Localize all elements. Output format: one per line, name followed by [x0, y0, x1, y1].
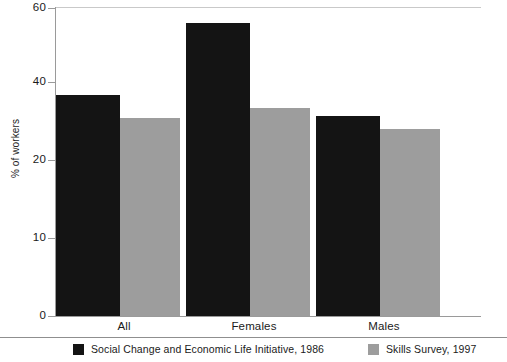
- y-tick-mark-20: [48, 160, 56, 161]
- x-axis-label-males: Males: [368, 320, 399, 332]
- bar-all-series-b: [120, 118, 180, 316]
- bar-females-series-a: [186, 23, 250, 316]
- legend-entry-series-b: Skills Survey, 1997: [368, 343, 476, 355]
- y-tick-label-0: 0: [39, 310, 46, 322]
- legend-swatch-icon-series-b: [368, 344, 379, 355]
- bar-males-series-b: [380, 129, 440, 316]
- legend-entry-series-a: Social Change and Economic Life Initiati…: [73, 343, 324, 355]
- y-tick-label-10: 10: [33, 232, 46, 244]
- y-tick-label-40: 40: [33, 76, 46, 88]
- bar-males-series-a: [316, 116, 380, 316]
- bar-females-series-b: [250, 108, 310, 316]
- y-tick-mark-10: [48, 238, 56, 239]
- legend-label-series-b: Skills Survey, 1997: [386, 343, 476, 355]
- y-tick-label-20: 20: [33, 154, 46, 166]
- x-axis-line: [55, 316, 481, 317]
- bar-all-series-a: [56, 95, 120, 316]
- x-axis-label-females: Females: [231, 320, 276, 332]
- bar-chart-plot-area: 010204060 % of workers AllFemalesMales: [0, 0, 507, 362]
- y-tick-mark-40: [48, 82, 56, 83]
- y-tick-label-60: 60: [33, 2, 46, 14]
- chart-legend: Social Change and Economic Life Initiati…: [0, 337, 507, 362]
- legend-swatch-icon-series-a: [73, 344, 84, 355]
- y-tick-mark-0: [48, 316, 56, 317]
- x-axis-label-all: All: [117, 320, 130, 332]
- y-axis-title: % of workers: [10, 99, 21, 199]
- legend-label-series-a: Social Change and Economic Life Initiati…: [91, 343, 324, 355]
- plot-top-border: [55, 7, 481, 8]
- chart-screenshot: 010204060 % of workers AllFemalesMales S…: [0, 0, 507, 362]
- y-tick-mark-60: [48, 8, 56, 9]
